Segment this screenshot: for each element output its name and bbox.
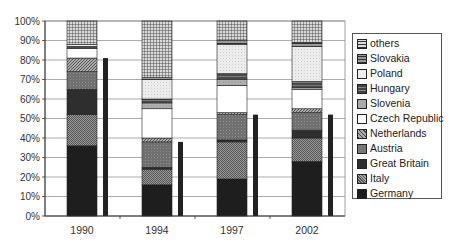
y-tick-label: 60% (20, 94, 40, 105)
legend-label: others (370, 36, 399, 51)
segment-czech-republic (292, 89, 322, 109)
segment-czech-republic (142, 109, 172, 138)
legend-swatch-icon (357, 189, 367, 199)
legend-swatch-icon (357, 99, 367, 109)
stacked-bar-2002 (292, 21, 322, 216)
legend-item-poland: Poland (357, 66, 441, 81)
legend-item-czech-republic: Czech Republic (357, 111, 441, 126)
segment-slovakia (217, 41, 247, 45)
y-tick-label: 40% (20, 133, 40, 144)
segment-italy (292, 138, 322, 161)
segment-czech-republic (67, 48, 97, 58)
segment-poland (142, 80, 172, 100)
segment-slovenia (142, 103, 172, 109)
segment-italy (142, 169, 172, 185)
legend-swatch-icon (357, 84, 367, 94)
segment-austria (292, 113, 322, 131)
x-tick-label: 1990 (70, 224, 94, 236)
segment-poland (217, 44, 247, 73)
segment-germany (292, 161, 322, 216)
stacked-bar-1994 (142, 21, 172, 216)
legend-swatch-icon (357, 54, 367, 64)
y-tick-label: 0% (26, 211, 41, 222)
companion-bar-1994 (178, 142, 183, 216)
legend-item-netherlands: Netherlands (357, 126, 441, 141)
segment-germany (217, 179, 247, 216)
legend-label: Hungary (370, 81, 410, 96)
segment-germany (67, 146, 97, 216)
legend-swatch-icon (357, 39, 367, 49)
legend-swatch-icon (357, 174, 367, 184)
legend-label: Great Britain (370, 156, 429, 171)
segment-others (217, 21, 247, 41)
stacked-bar-1990 (67, 21, 97, 216)
segment-hungary (142, 99, 172, 103)
segment-italy (217, 142, 247, 179)
segment-austria (217, 115, 247, 140)
y-axis: 0%10%20%30%40%50%60%70%80%90%100% (14, 16, 45, 222)
legend-item-italy: Italy (357, 171, 441, 186)
legend-item-slovakia: Slovakia (357, 51, 441, 66)
y-tick-label: 30% (20, 152, 40, 163)
y-tick-label: 100% (14, 16, 40, 27)
segment-others (142, 21, 172, 78)
y-tick-label: 10% (20, 191, 40, 202)
segment-others (67, 21, 97, 44)
legend-swatch-icon (357, 114, 367, 124)
chart-legend: othersSlovakiaPolandHungarySloveniaCzech… (352, 33, 442, 199)
segment-netherlands (292, 109, 322, 113)
legend-label: Austria (370, 141, 403, 156)
segment-hungary (217, 74, 247, 80)
x-axis: 1990199419972002 (70, 216, 319, 236)
legend-item-others: others (357, 36, 441, 51)
legend-label: Germany (370, 186, 413, 201)
legend-item-great-britain: Great Britain (357, 156, 441, 171)
segment-slovakia (292, 42, 322, 46)
y-tick-label: 70% (20, 74, 40, 85)
segment-others (292, 21, 322, 42)
segment-great-britain (67, 89, 97, 114)
segment-poland (292, 46, 322, 81)
legend-label: Netherlands (370, 126, 427, 141)
legend-label: Italy (370, 171, 389, 186)
segment-hungary (292, 81, 322, 87)
y-tick-label: 80% (20, 55, 40, 66)
legend-item-slovenia: Slovenia (357, 96, 441, 111)
legend-swatch-icon (357, 129, 367, 139)
segment-netherlands (67, 58, 97, 72)
companion-bar-1990 (103, 58, 108, 216)
segment-slovenia (217, 80, 247, 86)
legend-label: Slovakia (370, 51, 410, 66)
x-tick-label: 2002 (295, 224, 319, 236)
legend-label: Czech Republic (370, 111, 444, 126)
stacked-bar-1997 (217, 21, 247, 216)
x-tick-label: 1994 (145, 224, 169, 236)
legend-label: Poland (370, 66, 403, 81)
y-tick-label: 20% (20, 172, 40, 183)
segment-austria (142, 142, 172, 167)
legend-swatch-icon (357, 144, 367, 154)
segment-italy (67, 115, 97, 146)
legend-swatch-icon (357, 69, 367, 79)
x-tick-label: 1997 (220, 224, 244, 236)
companion-bar-1997 (253, 115, 258, 216)
legend-item-hungary: Hungary (357, 81, 441, 96)
segment-netherlands (142, 138, 172, 142)
y-tick-label: 90% (20, 35, 40, 46)
legend-swatch-icon (357, 159, 367, 169)
segment-austria (67, 72, 97, 90)
legend-label: Slovenia (370, 96, 410, 111)
legend-item-austria: Austria (357, 141, 441, 156)
y-tick-label: 50% (20, 113, 40, 124)
legend-item-germany: Germany (357, 186, 441, 201)
segment-germany (142, 185, 172, 216)
companion-bar-2002 (328, 115, 333, 216)
segment-great-britain (292, 130, 322, 138)
segment-czech-republic (217, 85, 247, 112)
